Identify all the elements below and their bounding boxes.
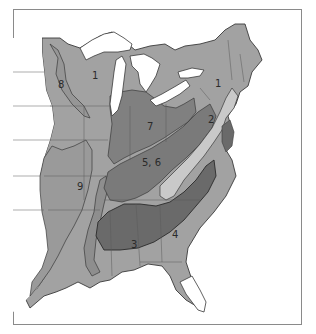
zone-label-7: 7 (147, 121, 153, 132)
zone-label-4: 4 (172, 229, 178, 240)
eastern-us-zone-map: 1 1 2 3 4 5, 6 7 8 9 (0, 0, 316, 334)
zone-label-3: 3 (131, 239, 137, 250)
zone-label-1: 1 (92, 70, 98, 81)
zone-label-5-6: 5, 6 (142, 157, 161, 168)
zone-label-1-northeast: 1 (215, 78, 221, 89)
delmarva-dark (222, 120, 234, 152)
zone-label-2: 2 (208, 114, 214, 125)
zone-label-9: 9 (77, 181, 83, 192)
zone-label-8: 8 (58, 79, 64, 90)
